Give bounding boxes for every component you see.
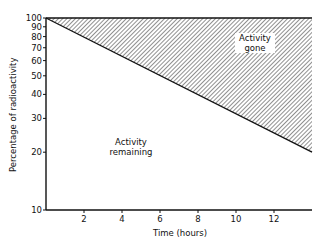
y-axis-label: Percentage of radioactivity bbox=[8, 58, 18, 172]
activity-remaining-label: Activity remaining bbox=[108, 137, 154, 157]
y-tick-label: 20 bbox=[31, 147, 42, 157]
y-tick-label: 80 bbox=[31, 32, 42, 42]
y-tick-label: 60 bbox=[31, 56, 42, 66]
x-tick-label: 8 bbox=[195, 214, 200, 224]
y-tick-label: 40 bbox=[31, 89, 42, 99]
y-tick-label: 30 bbox=[31, 113, 42, 123]
activity-gone-label: Activity gone bbox=[235, 33, 275, 53]
remaining-line2: remaining bbox=[108, 147, 154, 157]
x-tick-label: 2 bbox=[81, 214, 86, 224]
x-axis-label: Time (hours) bbox=[153, 228, 207, 238]
y-tick-label: 90 bbox=[31, 22, 42, 32]
gone-line1: Activity bbox=[235, 33, 275, 43]
x-tick-label: 6 bbox=[157, 214, 162, 224]
x-tick-label: 4 bbox=[119, 214, 124, 224]
remaining-line1: Activity bbox=[108, 137, 154, 147]
y-tick-label: 70 bbox=[31, 43, 42, 53]
y-tick-label: 50 bbox=[31, 71, 42, 81]
y-tick-label: 10 bbox=[31, 205, 42, 215]
x-tick-label: 10 bbox=[231, 214, 242, 224]
gone-line2: gone bbox=[235, 43, 275, 53]
x-tick-label: 12 bbox=[269, 214, 280, 224]
y-tick-label: 100 bbox=[26, 13, 42, 23]
